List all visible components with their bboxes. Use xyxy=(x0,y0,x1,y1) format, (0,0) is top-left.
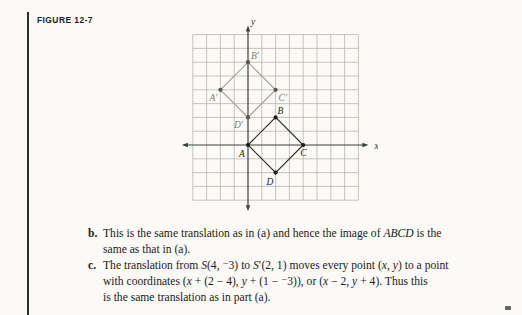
solution-item-c: c. The translation from S(4, ⁻3) to S′(2… xyxy=(88,258,522,306)
text-line: with coordinates (x + (2 − 4), y + (1 − … xyxy=(103,274,522,290)
solution-text-block: b. This is the same translation as in (a… xyxy=(88,226,522,306)
text-line: same as that in (a). xyxy=(103,242,522,258)
vertex-label: D′ xyxy=(233,120,244,130)
text-run: is the same translation as in part (a). xyxy=(103,291,270,304)
x-axis-arrow-left xyxy=(182,143,188,147)
text-run: − 2, xyxy=(328,275,352,288)
vertex-dot xyxy=(274,88,278,92)
vertex-dot xyxy=(274,171,278,175)
vertex-dot xyxy=(246,143,250,147)
figure-caption: FIGURE 12-7 xyxy=(37,15,93,25)
solution-item-b: b. This is the same translation as in (a… xyxy=(88,226,522,258)
text-run: The translation from xyxy=(103,259,201,272)
coordinate-grid-figure: xyA′B′C′D′ABCD xyxy=(168,6,378,216)
text-run: + 4). Thus this xyxy=(357,275,427,288)
y-axis-arrow-down xyxy=(246,205,250,211)
text-run: This is the same translation as in (a) a… xyxy=(103,227,383,240)
vertex-dot xyxy=(246,115,250,119)
vertex-dot xyxy=(301,143,305,147)
vertex-label: D xyxy=(266,177,274,187)
y-axis-arrow-up xyxy=(246,26,250,32)
vertex-label: A xyxy=(238,149,245,159)
x-axis-arrow-right xyxy=(362,143,368,147)
text-run: + (1 − ⁻3)), or ( xyxy=(247,275,323,288)
x-axis-label: x xyxy=(373,141,378,151)
vertex-label: C xyxy=(300,148,307,158)
text-line: This is the same translation as in (a) a… xyxy=(103,226,522,242)
vertex-dot xyxy=(218,88,222,92)
vertex-dot xyxy=(246,60,250,64)
left-margin-rule xyxy=(27,12,29,315)
text-line: The translation from S(4, ⁻3) to S′(2, 1… xyxy=(103,258,522,274)
y-axis-label: y xyxy=(250,17,256,27)
print-artifact-mark xyxy=(505,306,511,310)
text-run: ) to a point xyxy=(398,259,449,272)
item-b-marker: b. xyxy=(88,226,97,242)
text-run: (4, ⁻3) to xyxy=(207,259,253,272)
text-run-italic: ABCD xyxy=(383,227,413,240)
text-run: ′(2, 1) moves every point ( xyxy=(259,259,382,272)
text-run: + (2 − 4), xyxy=(192,275,242,288)
text-run: is the xyxy=(414,227,442,240)
vertex-label: C′ xyxy=(279,93,288,103)
vertex-label: A′ xyxy=(208,93,218,103)
text-run: with coordinates ( xyxy=(103,275,187,288)
text-run: same as that in (a). xyxy=(103,243,190,256)
vertex-label: B xyxy=(278,106,284,116)
item-c-marker: c. xyxy=(88,258,96,274)
vertex-label: B′ xyxy=(251,51,260,61)
text-line: is the same translation as in part (a). xyxy=(103,290,522,306)
